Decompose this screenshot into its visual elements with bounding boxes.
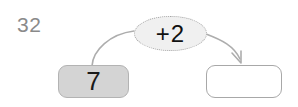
worksheet-exercise-canvas: 32 7 +2 (0, 0, 298, 107)
operation-bubble: +2 (134, 16, 207, 51)
operation-label: +2 (156, 20, 185, 48)
input-value-box: 7 (58, 65, 129, 98)
exercise-number: 32 (17, 13, 41, 37)
output-answer-box[interactable] (206, 65, 282, 98)
input-to-operation-arc (92, 31, 134, 66)
input-value-text: 7 (86, 66, 100, 97)
